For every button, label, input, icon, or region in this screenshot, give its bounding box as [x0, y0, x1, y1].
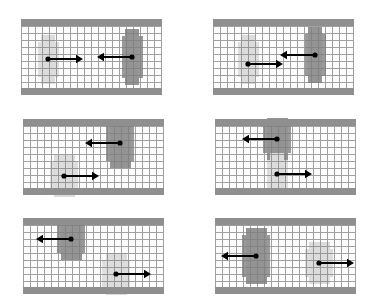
agent-light-velocity-arrow: [23, 119, 164, 195]
agent-dark-velocity-arrow: [213, 19, 354, 95]
scenario-panel: [192, 0, 384, 103]
corridor-stage: [23, 218, 164, 294]
scenario-panel: [0, 203, 192, 308]
agent-light-velocity-arrow: [215, 218, 356, 294]
corridor-stage: [21, 19, 162, 95]
agent-light-velocity-arrow: [215, 119, 356, 195]
scenario-panel: [192, 103, 384, 203]
corridor-stage: [215, 218, 356, 294]
scenario-panel: [192, 203, 384, 308]
corridor-stage: [23, 119, 164, 195]
corridor-stage: [213, 19, 354, 95]
agent-light-velocity-arrow: [23, 218, 164, 294]
corridor-stage: [215, 119, 356, 195]
scenario-panel: [0, 103, 192, 203]
agent-dark-velocity-arrow: [21, 19, 162, 95]
scenario-panel: [0, 0, 192, 103]
scenario-figure: [0, 0, 384, 308]
